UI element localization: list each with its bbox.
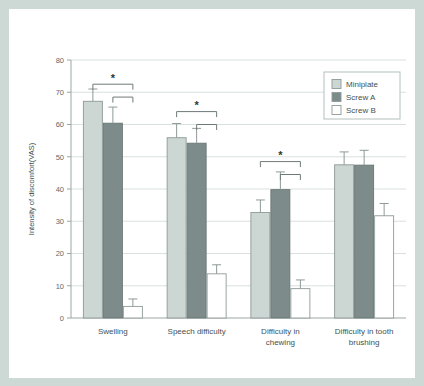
x-tick-label: Difficulty in <box>261 327 300 336</box>
y-tick-label: 30 <box>56 217 64 226</box>
error-bar <box>172 124 181 138</box>
significance-asterisk: * <box>194 99 199 111</box>
error-bar <box>296 280 305 289</box>
x-tick-label: brushing <box>349 338 380 347</box>
legend-label: Miniplate <box>346 80 379 89</box>
x-tick-label: Speech difficulty <box>168 327 226 336</box>
x-tick-label: Difficulty in tooth <box>335 327 394 336</box>
error-bar <box>256 200 265 213</box>
error-bar <box>212 265 221 274</box>
chart-canvas: 01020304050607080Intensity of discomfort… <box>9 9 415 378</box>
bar-screw-b <box>291 289 310 318</box>
significance-bracket-outer <box>93 84 133 90</box>
significance-bracket-inner <box>113 97 133 103</box>
figure-panel: 01020304050607080Intensity of discomfort… <box>9 9 415 378</box>
legend-entry: Screw A <box>332 93 376 103</box>
bar-screw-b <box>123 306 142 318</box>
significance-asterisk: * <box>111 72 116 84</box>
x-axis-category-labels: SwellingSpeech difficultyDifficulty inch… <box>98 327 393 347</box>
legend-entry: Miniplate <box>332 80 379 90</box>
bar-miniplate <box>251 213 270 318</box>
bar-miniplate <box>335 165 354 318</box>
bar-screw-a <box>103 123 122 318</box>
bar-screw-a <box>271 190 290 318</box>
significance-bracket-inner <box>280 174 300 180</box>
error-bar <box>192 128 201 143</box>
bar-chart: 01020304050607080Intensity of discomfort… <box>9 9 415 378</box>
y-tick-label: 80 <box>56 56 64 65</box>
bar-screw-b <box>207 274 226 318</box>
legend-swatch <box>332 93 341 102</box>
bar-miniplate <box>83 101 102 318</box>
y-tick-label: 20 <box>56 249 64 258</box>
error-bar <box>128 299 137 306</box>
y-axis-tick-labels: 01020304050607080 <box>56 56 64 323</box>
x-tick-label: chewing <box>266 338 295 347</box>
legend-label: Screw A <box>346 93 376 102</box>
bar-screw-a <box>355 165 374 318</box>
error-bar <box>108 107 117 123</box>
y-tick-label: 0 <box>60 314 64 323</box>
significance-bracket-inner <box>197 125 217 131</box>
significance-bracket-outer <box>177 112 217 118</box>
bar-miniplate <box>167 138 186 318</box>
y-tick-label: 60 <box>56 120 64 129</box>
error-bar <box>340 152 349 165</box>
y-tick-label: 10 <box>56 282 64 291</box>
legend: MiniplateScrew AScrew B <box>324 72 400 119</box>
error-bar <box>380 204 389 216</box>
legend-swatch <box>332 80 341 89</box>
error-bar <box>88 89 97 101</box>
error-bar <box>360 150 369 165</box>
bar-screw-b <box>375 216 394 318</box>
legend-label: Screw B <box>346 106 376 115</box>
y-axis-title: Intensity of discomfort(VAS) <box>27 142 36 235</box>
legend-entry: Screw B <box>332 106 376 116</box>
x-tick-label: Swelling <box>98 327 128 336</box>
legend-swatch <box>332 106 341 115</box>
significance-asterisk: * <box>278 149 283 161</box>
y-tick-label: 70 <box>56 88 64 97</box>
y-tick-label: 40 <box>56 185 64 194</box>
figure-frame: 01020304050607080Intensity of discomfort… <box>0 0 424 386</box>
bar-screw-a <box>187 143 206 318</box>
significance-bracket-outer <box>260 162 300 168</box>
y-tick-label: 50 <box>56 153 64 162</box>
